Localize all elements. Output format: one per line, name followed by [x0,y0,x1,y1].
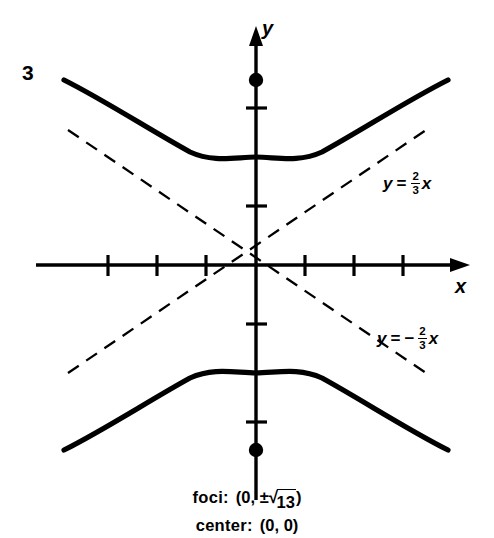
x-axis [36,258,470,272]
asymptote-negative-lhs: y [377,330,386,347]
square-root-icon: √13 [269,489,296,514]
asymptote-positive-equals: = [396,175,406,192]
y-axis [249,26,263,500]
center-label: center: [196,516,253,534]
asymptote-lines [68,130,426,373]
focus-lower-marker [249,443,263,457]
asymptote-negative-fraction: 2 3 [418,326,426,351]
asymptote-positive-numerator: 2 [411,171,419,184]
asymptote-label-negative: y = − 2 3 x [377,326,438,351]
hyperbola-figure: 3 y x y = 2 3 x y = − 2 3 x foci:(0, ±√1… [0,0,494,538]
asymptote-negative-denominator: 3 [418,339,426,351]
x-axis-arrow-right [450,258,470,272]
asymptote-positive-fraction: 2 3 [411,171,419,196]
foci-value-suffix: ) [296,488,302,506]
focus-upper-marker [249,73,263,87]
hyperbola-plot [0,0,494,538]
foci-label: foci: [193,488,229,506]
center-value: (0, 0) [260,516,299,534]
radicand: 13 [277,489,296,514]
foci-value: (0, ±√13) [236,488,302,506]
caption-center-line: center:(0, 0) [0,514,494,537]
asymptote-positive-lhs: y [383,175,392,192]
caption-foci-line: foci:(0, ±√13) [0,486,494,514]
figure-number: 3 [22,62,34,83]
figure-caption: foci:(0, ±√13) center:(0, 0) [0,486,494,537]
asymptote-negative-equals: = [390,330,400,347]
asymptote-positive-variable: x [422,175,431,192]
asymptote-label-positive: y = 2 3 x [383,171,431,196]
asymptote-negative-numerator: 2 [418,326,426,339]
asymptote-positive-denominator: 3 [411,184,419,196]
asymptote-negative-sign: − [404,330,414,347]
x-axis-label: x [455,276,466,296]
y-axis-arrow-up [249,26,263,46]
y-axis-label: y [262,18,273,38]
asymptote-negative-variable: x [429,330,438,347]
foci-value-prefix: (0, ± [236,488,269,506]
